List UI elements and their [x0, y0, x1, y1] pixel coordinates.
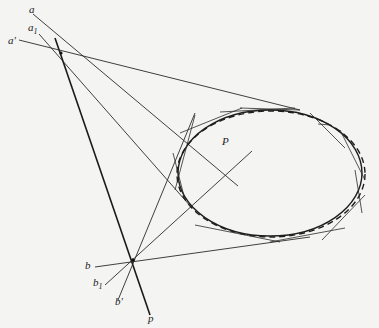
label-a: a: [29, 3, 35, 15]
polar-diagram: a a1 a' b b1 b' p P: [0, 0, 379, 328]
label-b1: b1: [93, 276, 103, 291]
label-p: p: [147, 312, 154, 324]
label-b: b: [85, 259, 91, 271]
bottom-apex-point: [131, 258, 135, 262]
label-a-prime: a': [8, 34, 17, 46]
line-a-prime: [19, 40, 300, 110]
line-a: [33, 14, 238, 186]
line-b-prime: [118, 113, 195, 300]
label-a1: a1: [28, 21, 38, 36]
line-a1: [39, 34, 192, 208]
label-P: P: [221, 135, 229, 147]
label-b-prime: b': [115, 295, 124, 307]
top-apex-point: [59, 51, 62, 54]
line-p: [55, 38, 150, 315]
